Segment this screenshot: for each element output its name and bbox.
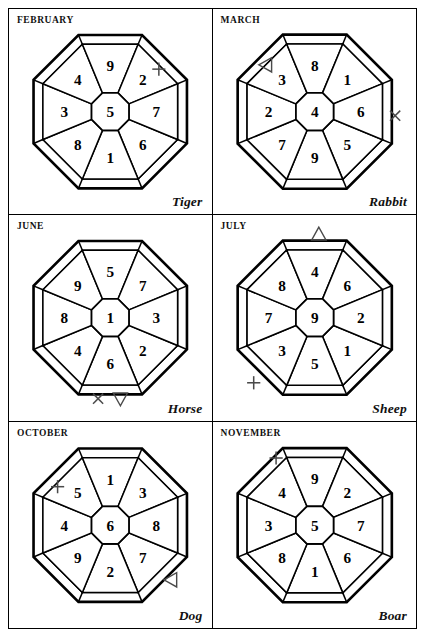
sector-number-n: 9: [106, 57, 114, 74]
diagram-wrapper: 462153789: [213, 215, 417, 420]
sector-number-se: 1: [343, 342, 351, 359]
month-label: JULY: [221, 221, 247, 232]
sector-number-w: 3: [61, 103, 69, 120]
sector-number-s: 2: [106, 562, 114, 579]
triangle-up-marker: [311, 227, 325, 240]
center-number: 1: [106, 309, 114, 326]
sector-number-se: 6: [343, 549, 351, 566]
sector-number-nw: 4: [278, 484, 286, 501]
center-number: 5: [310, 516, 318, 533]
animal-label: Horse: [168, 401, 203, 417]
sector-number-w: 8: [61, 309, 69, 326]
sector-number-se: 5: [343, 136, 351, 153]
sector-number-e: 2: [357, 309, 365, 326]
sector-number-s: 5: [310, 356, 318, 373]
panel-november: 927618345NOVEMBERBoar: [213, 422, 417, 628]
sector-number-ne: 6: [343, 277, 351, 294]
panel-june: 573264891JUNEHorse: [9, 215, 213, 421]
octagon-diagram: 927618345: [9, 9, 212, 214]
sector-number-nw: 9: [74, 277, 82, 294]
sector-number-s: 1: [106, 149, 114, 166]
month-label: OCTOBER: [17, 428, 68, 439]
sector-number-n: 5: [106, 264, 114, 281]
sector-number-ne: 2: [139, 71, 147, 88]
sector-number-e: 7: [357, 516, 365, 533]
sector-number-sw: 8: [278, 549, 286, 566]
octagon-diagram: 462153789: [213, 215, 417, 420]
panel-july: 462153789JULYSheep: [213, 215, 417, 421]
month-label: MARCH: [221, 15, 261, 26]
sector-number-n: 4: [310, 263, 318, 280]
sector-number-e: 6: [357, 103, 365, 120]
panel-march: 816597234MARCHRabbit: [213, 9, 417, 215]
sector-number-n: 9: [310, 470, 318, 487]
animal-label: Dog: [179, 608, 203, 624]
sector-number-e: 8: [152, 516, 160, 533]
panel-october: 138729456OCTOBERDog: [9, 422, 213, 628]
sector-number-se: 2: [139, 342, 147, 359]
chart-grid: 927618345FEBRUARYTiger816597234MARCHRabb…: [8, 8, 417, 629]
diagram-wrapper: 816597234: [213, 9, 417, 214]
octagon-diagram: 138729456: [9, 422, 212, 628]
month-label: FEBRUARY: [17, 15, 74, 26]
sector-number-nw: 3: [278, 71, 286, 88]
month-label: NOVEMBER: [221, 428, 281, 439]
animal-label: Sheep: [372, 401, 407, 417]
sector-number-w: 4: [61, 516, 69, 533]
sector-number-e: 7: [152, 103, 160, 120]
sector-number-sw: 4: [74, 342, 82, 359]
diagram-wrapper: 573264891: [9, 215, 212, 420]
sector-number-nw: 4: [74, 71, 82, 88]
animal-label: Boar: [378, 608, 407, 624]
sector-number-nw: 8: [278, 277, 286, 294]
center-number: 5: [106, 103, 114, 120]
sector-number-e: 3: [152, 309, 160, 326]
sector-number-s: 1: [310, 562, 318, 579]
sector-number-w: 3: [264, 516, 272, 533]
sector-number-s: 6: [106, 355, 114, 372]
diagram-wrapper: 138729456: [9, 422, 212, 628]
sector-number-n: 8: [310, 57, 318, 74]
sector-number-sw: 9: [74, 549, 82, 566]
month-label: JUNE: [17, 221, 44, 232]
center-number: 9: [310, 309, 318, 326]
diagram-wrapper: 927618345: [213, 422, 417, 628]
sector-number-ne: 2: [343, 484, 351, 501]
sector-number-ne: 3: [139, 484, 147, 501]
sector-number-sw: 8: [74, 136, 82, 153]
sector-number-se: 7: [139, 549, 147, 566]
sector-number-w: 7: [264, 309, 272, 326]
plus-marker: [247, 376, 260, 389]
octagon-diagram: 927618345: [213, 422, 417, 628]
octagon-diagram: 573264891: [9, 215, 212, 420]
center-number: 4: [310, 103, 318, 120]
sector-number-s: 9: [310, 149, 318, 166]
center-number: 6: [106, 516, 114, 533]
sector-number-se: 6: [139, 136, 147, 153]
sector-number-w: 2: [264, 103, 272, 120]
sector-number-nw: 5: [74, 484, 82, 501]
octagon-diagram: 816597234: [213, 9, 417, 214]
sector-number-sw: 3: [278, 342, 286, 359]
sector-number-sw: 7: [278, 136, 286, 153]
sector-number-ne: 7: [139, 277, 147, 294]
animal-label: Tiger: [172, 194, 203, 210]
panel-february: 927618345FEBRUARYTiger: [9, 9, 213, 215]
diagram-wrapper: 927618345: [9, 9, 212, 214]
sector-number-ne: 1: [343, 71, 351, 88]
sector-number-n: 1: [106, 470, 114, 487]
animal-label: Rabbit: [369, 194, 407, 210]
